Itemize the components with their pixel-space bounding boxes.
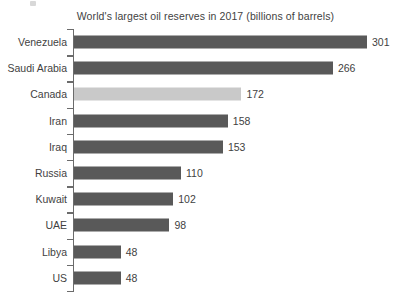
bar-value-label: 301 xyxy=(372,36,390,48)
bar-value-label: 102 xyxy=(178,193,196,205)
bar xyxy=(74,88,241,101)
bar-row: UAE98 xyxy=(0,212,411,238)
bar-row: Venezuela301 xyxy=(0,29,411,55)
bar xyxy=(74,36,367,49)
bar xyxy=(74,62,333,75)
bar-value-label: 48 xyxy=(126,246,138,258)
bar xyxy=(74,167,181,180)
bar-row: Iraq153 xyxy=(0,134,411,160)
category-label: Canada xyxy=(30,88,67,100)
category-label: Russia xyxy=(35,167,67,179)
axis-tick xyxy=(67,291,73,292)
category-label: Saudi Arabia xyxy=(7,62,67,74)
category-label: Kuwait xyxy=(35,193,67,205)
plot-area: Venezuela301Saudi Arabia266Canada172Iran… xyxy=(0,29,411,297)
bar-row: US48 xyxy=(0,265,411,291)
bar-value-label: 172 xyxy=(246,88,264,100)
bar-value-label: 98 xyxy=(174,219,186,231)
bar-value-label: 110 xyxy=(186,167,203,179)
bar-value-label: 48 xyxy=(126,272,138,284)
bar-row: Canada172 xyxy=(0,81,411,107)
bar-chart: World's largest oil reserves in 2017 (bi… xyxy=(0,0,411,306)
category-label: UAE xyxy=(45,219,67,231)
category-label: Libya xyxy=(42,246,67,258)
bar-value-label: 266 xyxy=(338,62,356,74)
category-label: Venezuela xyxy=(18,36,67,48)
bar xyxy=(74,140,223,153)
chart-title: World's largest oil reserves in 2017 (bi… xyxy=(0,10,411,22)
bar-value-label: 153 xyxy=(228,141,246,153)
bar-row: Libya48 xyxy=(0,239,411,265)
bar-row: Saudi Arabia266 xyxy=(0,55,411,81)
bar-row: Russia110 xyxy=(0,160,411,186)
scan-artifact xyxy=(30,1,36,6)
bar-row: Iran158 xyxy=(0,108,411,134)
category-label: US xyxy=(52,272,67,284)
bar xyxy=(74,271,121,284)
bar-value-label: 158 xyxy=(233,115,251,127)
bar-row: Kuwait102 xyxy=(0,186,411,212)
bar xyxy=(74,114,228,127)
bar xyxy=(74,219,169,232)
bar xyxy=(74,193,173,206)
category-label: Iran xyxy=(49,115,67,127)
bar xyxy=(74,245,121,258)
category-label: Iraq xyxy=(49,141,67,153)
